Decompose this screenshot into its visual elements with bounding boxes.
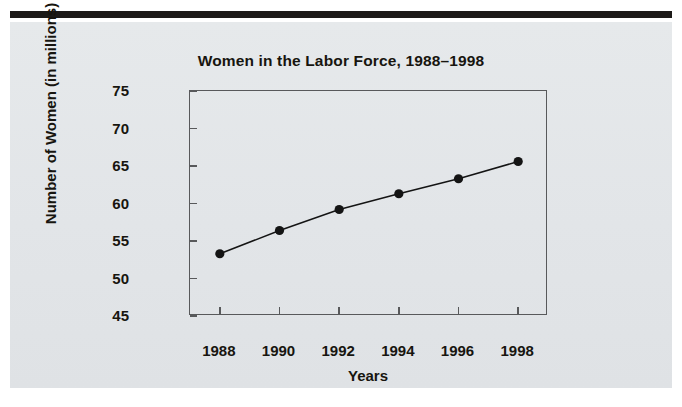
page-top-rule <box>10 11 672 18</box>
data-point-1988 <box>215 249 224 258</box>
y-axis-tick-label: 70 <box>87 119 129 136</box>
y-axis-tick-label: 50 <box>87 269 129 286</box>
x-axis-tick-label: 1994 <box>368 342 428 359</box>
figure-panel: Women in the Labor Force, 1988–1998 Numb… <box>10 22 672 388</box>
data-point-1992 <box>335 205 344 214</box>
y-axis-tick-label: 60 <box>87 194 129 211</box>
y-axis-tick-label: 45 <box>87 307 129 324</box>
series-markers <box>215 157 523 258</box>
data-point-1990 <box>275 226 284 235</box>
x-axis-tick-label: 1988 <box>189 342 249 359</box>
data-point-1998 <box>514 157 523 166</box>
plot-inner <box>190 91 546 314</box>
series-women-labor-force <box>190 91 548 316</box>
y-axis-title: Number of Women (in millions) <box>42 0 59 239</box>
x-axis-tick-label: 1992 <box>308 342 368 359</box>
x-axis-tick-label: 1996 <box>428 342 488 359</box>
y-axis-tick-label: 75 <box>87 82 129 99</box>
series-line <box>220 162 518 254</box>
x-axis-title: Years <box>189 367 547 384</box>
x-axis-tick-label: 1990 <box>249 342 309 359</box>
y-axis-tick-label: 55 <box>87 232 129 249</box>
data-point-1996 <box>454 174 463 183</box>
x-axis-tick-label: 1998 <box>487 342 547 359</box>
chart-title: Women in the Labor Force, 1988–1998 <box>10 52 672 70</box>
y-axis-tick-label: 65 <box>87 157 129 174</box>
data-point-1994 <box>394 189 403 198</box>
plot-area <box>189 90 547 315</box>
